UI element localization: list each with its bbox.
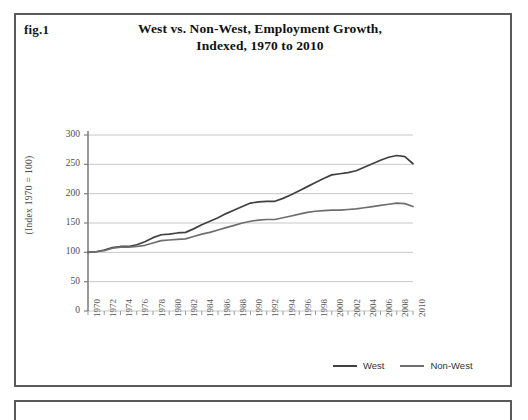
figure-number-label: fig.1 [24,22,49,38]
legend-item-non-west[interactable]: Non-West [400,360,472,371]
chart-legend: WestNon-West [333,360,473,371]
legend-line-swatch-icon [333,365,357,367]
legend-line-swatch-icon [400,365,424,367]
figure-frame [14,13,512,387]
chart-title-line-2: Indexed, 1970 to 2010 [90,37,430,54]
legend-label: Non-West [430,360,472,371]
secondary-frame [14,400,512,420]
chart-title: West vs. Non-West, Employment Growth, In… [90,20,430,54]
chart-title-line-1: West vs. Non-West, Employment Growth, [90,20,430,37]
legend-item-west[interactable]: West [333,360,384,371]
legend-label: West [363,360,384,371]
